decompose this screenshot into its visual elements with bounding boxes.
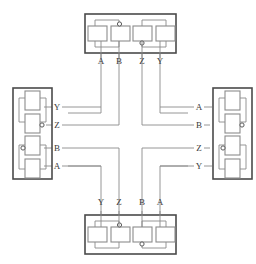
- label-right-B: B: [196, 120, 202, 130]
- top-gate-3[interactable]: [133, 26, 152, 41]
- wire-bottom-A: [160, 166, 188, 215]
- label-top-B: B: [116, 56, 122, 66]
- label-right-Y: Y: [196, 161, 203, 171]
- label-bottom-Z: Z: [116, 197, 122, 207]
- left-module[interactable]: [13, 88, 52, 179]
- left-gate-3[interactable]: [25, 136, 40, 155]
- top-gate-2-bubble-icon: [117, 22, 121, 26]
- bottom-gate-2[interactable]: [111, 227, 130, 242]
- label-bottom-B: B: [139, 197, 145, 207]
- left-gate-4[interactable]: [25, 159, 40, 178]
- label-left-Z: Z: [54, 120, 60, 130]
- top-module-port-leads: [101, 41, 160, 58]
- interconnect-wires: [44, 53, 212, 215]
- left-gate-2[interactable]: [25, 114, 40, 133]
- right-gate-4[interactable]: [225, 159, 240, 178]
- wire-bottom-Y: [68, 166, 101, 215]
- label-bottom-A: A: [157, 197, 164, 207]
- right-gate-2[interactable]: [225, 114, 240, 133]
- label-right-Z: Z: [196, 143, 202, 153]
- wire-bottom-B: [142, 148, 188, 215]
- label-right-A: A: [196, 102, 203, 112]
- right-gate-3-bubble-icon: [221, 146, 225, 150]
- top-module[interactable]: [85, 14, 176, 58]
- top-gate-4[interactable]: [156, 26, 175, 41]
- wire-top-B: [68, 53, 119, 125]
- label-bottom-Y: Y: [98, 197, 105, 207]
- block-diagram-svg: A B Z Y Y Z B A Y Z B A A B Z Y: [0, 0, 256, 264]
- diagram-canvas: A B Z Y Y Z B A Y Z B A A B Z Y: [0, 0, 256, 264]
- top-gate-2[interactable]: [111, 26, 130, 41]
- right-gate-1[interactable]: [225, 91, 240, 110]
- right-module[interactable]: [213, 88, 252, 179]
- bottom-gate-3-bubble-icon: [140, 242, 144, 246]
- left-gate-1[interactable]: [25, 91, 40, 110]
- wire-top-Y: [160, 53, 188, 113]
- bottom-gate-3[interactable]: [133, 227, 152, 242]
- left-gate-2-bubble-icon: [40, 123, 44, 127]
- label-left-B: B: [54, 143, 60, 153]
- bottom-gate-2-bubble-icon: [117, 223, 121, 227]
- bottom-gate-4[interactable]: [156, 227, 175, 242]
- wire-top-A: [68, 53, 101, 113]
- wire-bottom-Z: [68, 148, 119, 215]
- bottom-module[interactable]: [85, 211, 176, 254]
- right-gate-3[interactable]: [225, 136, 240, 155]
- right-gate-2-bubble-icon: [240, 123, 244, 127]
- wire-top-Z: [142, 53, 188, 125]
- label-top-Y: Y: [157, 56, 164, 66]
- bottom-module-port-leads: [101, 211, 160, 227]
- signal-labels: A B Z Y Y Z B A Y Z B A A B Z Y: [54, 56, 203, 207]
- label-top-A: A: [98, 56, 105, 66]
- bottom-gate-1[interactable]: [88, 227, 107, 242]
- left-gate-3-bubble-icon: [21, 146, 25, 150]
- label-top-Z: Z: [139, 56, 145, 66]
- label-left-A: A: [54, 161, 61, 171]
- label-left-Y: Y: [54, 102, 61, 112]
- top-gate-1[interactable]: [88, 26, 107, 41]
